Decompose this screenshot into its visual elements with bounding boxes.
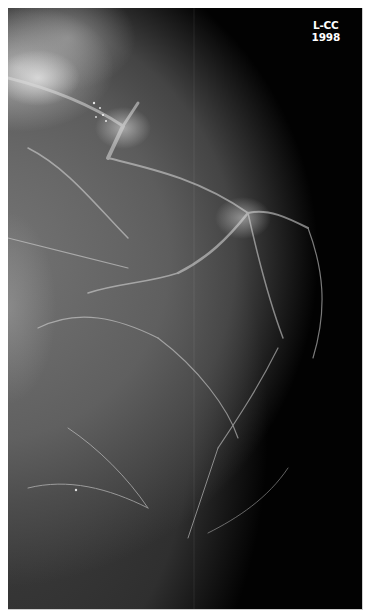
- view-label-text: L-CC: [312, 19, 340, 31]
- microcalcifications: [75, 102, 107, 491]
- fibroglandular-strands: [8, 8, 362, 609]
- view-label: L-CC 1998: [312, 19, 340, 43]
- mammogram-image: L-CC 1998: [8, 8, 363, 610]
- year-label-text: 1998: [312, 31, 340, 43]
